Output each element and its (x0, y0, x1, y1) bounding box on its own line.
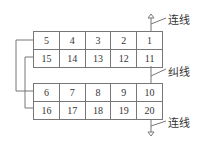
terminal-cell: 17 (59, 102, 85, 120)
top-arrow-icon (148, 14, 154, 18)
bracket-row15-to-row16 (25, 57, 33, 108)
terminal-cell: 4 (59, 32, 85, 50)
top-row-1: 5 4 3 2 1 (34, 32, 163, 50)
bottom-label-leader (151, 121, 166, 126)
terminal-cell: 19 (111, 102, 137, 120)
bottom-terminal-block: 6 7 8 9 10 16 17 18 19 20 (33, 83, 163, 120)
terminal-cell: 2 (111, 32, 137, 50)
terminal-cell: 8 (85, 84, 111, 102)
terminal-cell: 6 (34, 84, 60, 102)
bottom-arrow-icon (148, 132, 154, 136)
bottom-row-1: 6 7 8 9 10 (34, 84, 163, 102)
bottom-connection-label: 连线 (168, 114, 190, 130)
terminal-cell: 9 (111, 84, 137, 102)
terminal-cell: 3 (85, 32, 111, 50)
top-label-leader (151, 18, 166, 24)
terminal-cell: 1 (137, 32, 163, 50)
terminal-cell: 11 (137, 50, 163, 68)
middle-label-leader (151, 69, 166, 76)
top-row-2: 15 14 13 12 11 (34, 50, 163, 68)
terminal-cell: 18 (85, 102, 111, 120)
terminal-cell: 10 (137, 84, 163, 102)
terminal-cell: 13 (85, 50, 111, 68)
top-terminal-block: 5 4 3 2 1 15 14 13 12 11 (33, 31, 163, 68)
terminal-cell: 20 (137, 102, 163, 120)
top-connection-label: 连线 (168, 11, 190, 27)
terminal-cell: 16 (34, 102, 60, 120)
terminal-cell: 5 (34, 32, 60, 50)
terminal-cell: 14 (59, 50, 85, 68)
terminal-cell: 7 (59, 84, 85, 102)
middle-jumper-label: 纠线 (168, 63, 190, 79)
terminal-cell: 15 (34, 50, 60, 68)
terminal-cell: 12 (111, 50, 137, 68)
bottom-row-2: 16 17 18 19 20 (34, 102, 163, 120)
